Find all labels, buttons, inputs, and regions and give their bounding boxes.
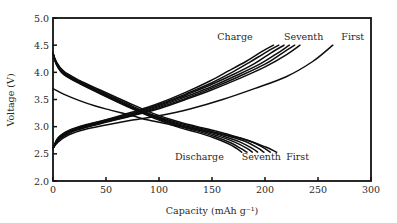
curves-group	[53, 45, 333, 152]
y-tick-label: 5.0	[34, 13, 49, 24]
y-tick-label: 4.0	[34, 67, 49, 78]
annotation-discharge: Discharge	[175, 151, 224, 162]
x-tick-label: 200	[256, 184, 274, 195]
x-tick-label: 150	[203, 184, 221, 195]
y-tick-label: 3.5	[34, 94, 49, 105]
y-axis-label: Voltage (V)	[5, 73, 16, 127]
series-line-charge-cycle-4	[53, 45, 289, 148]
x-axis: 050100150200250300	[50, 177, 380, 195]
series-line-charge-cycle-7	[53, 45, 274, 148]
chart: 050100150200250300 2.02.53.03.54.04.55.0…	[0, 0, 397, 223]
x-tick-label: 300	[362, 184, 380, 195]
annotation-first: First	[341, 31, 364, 42]
y-tick-label: 2.0	[34, 176, 49, 187]
y-tick-label: 2.5	[34, 148, 49, 159]
annotation-first: First	[286, 151, 309, 162]
x-tick-label: 100	[150, 184, 168, 195]
x-tick-label: 0	[50, 184, 56, 195]
y-tick-label: 4.5	[34, 40, 49, 51]
x-tick-label: 250	[309, 184, 327, 195]
series-line-charge-cycle-5	[53, 45, 284, 148]
annotation-seventh: Seventh	[242, 151, 281, 162]
annotation-seventh: Seventh	[284, 31, 323, 42]
x-axis-label: Capacity (mAh g⁻¹)	[166, 205, 259, 216]
series-line-discharge-cycle-6	[53, 53, 247, 152]
x-tick-label: 50	[100, 184, 112, 195]
series-line-charge-cycle-6	[53, 45, 279, 148]
annotation-charge: Charge	[217, 31, 253, 42]
series-line-discharge-cycle-5	[53, 53, 252, 152]
y-tick-label: 3.0	[34, 121, 49, 132]
